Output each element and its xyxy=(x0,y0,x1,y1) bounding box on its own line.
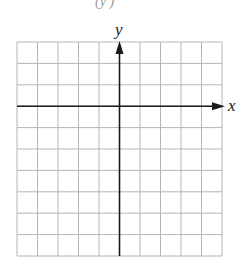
x-axis-arrow-icon xyxy=(212,102,225,110)
y-axis-arrow-icon xyxy=(116,41,124,54)
y-axis-label: y xyxy=(113,20,123,39)
top-partial-text: (y ) xyxy=(95,0,114,10)
x-axis-label: x xyxy=(227,96,236,115)
coordinate-grid-diagram: (y ) y x xyxy=(0,0,243,258)
